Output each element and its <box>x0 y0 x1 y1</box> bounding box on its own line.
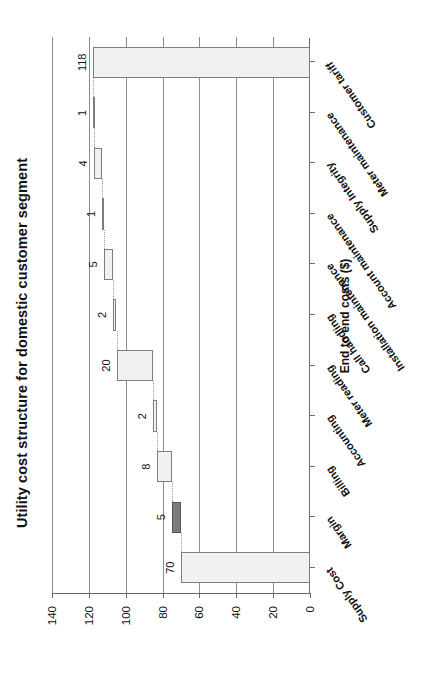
waterfall-connector <box>94 129 95 148</box>
category-tick <box>310 213 315 214</box>
bar-value-label: 118 <box>76 54 88 72</box>
y-axis-tick-label: 140 <box>46 606 58 625</box>
waterfall-connector <box>172 482 173 501</box>
bar-value-label: 1 <box>76 110 88 116</box>
rotated-chart-wrapper: Utility cost structure for domestic cust… <box>0 0 424 686</box>
chart-title: Utility cost structure for domestic cust… <box>14 0 30 686</box>
category-tick <box>310 112 315 113</box>
bar-value-label: 2 <box>136 413 148 419</box>
bar-value-label: 5 <box>155 514 167 520</box>
bar-value-label: 2 <box>96 312 108 318</box>
gridline <box>89 37 90 593</box>
bar-margin <box>172 502 181 533</box>
y-axis-tick <box>199 593 200 598</box>
bar-customer-tariff <box>93 47 310 78</box>
gridline <box>199 37 200 593</box>
gridline <box>273 37 274 593</box>
category-tick <box>310 365 315 366</box>
bar-value-label: 4 <box>77 160 89 166</box>
waterfall-connector <box>117 331 118 350</box>
bar-billing <box>157 451 172 482</box>
category-tick <box>310 567 315 568</box>
waterfall-connector <box>102 179 103 198</box>
waterfall-connector <box>153 381 154 400</box>
bar-supply-integrity <box>94 148 101 179</box>
category-tick <box>310 263 315 264</box>
category-tick <box>310 466 315 467</box>
y-axis-tick-label: 0 <box>304 606 316 612</box>
gridline <box>126 37 127 593</box>
gridline <box>163 37 164 593</box>
y-axis-tick-label: 120 <box>83 606 95 625</box>
category-tick <box>310 162 315 163</box>
bar-call-handling <box>113 299 117 330</box>
category-tick <box>310 314 315 315</box>
bar-meter-maintenance <box>93 97 95 128</box>
y-axis-tick <box>163 593 164 598</box>
bar-value-label: 1 <box>85 211 97 217</box>
y-axis-tick <box>236 593 237 598</box>
bar-value-label: 5 <box>87 261 99 267</box>
category-tick <box>310 415 315 416</box>
bar-accounting <box>153 400 157 431</box>
y-axis-tick-label: 60 <box>193 606 205 619</box>
plot-area: 020406080100120140705822025141118 <box>52 38 310 594</box>
bar-supply-cost <box>181 552 310 583</box>
y-axis-tick <box>89 593 90 598</box>
y-axis-tick-label: 20 <box>267 606 279 619</box>
waterfall-connector <box>113 280 114 299</box>
bar-value-label: 8 <box>140 464 152 470</box>
bar-installation-maintenance <box>104 249 113 280</box>
y-axis-tick <box>52 593 53 598</box>
category-tick <box>310 61 315 62</box>
waterfall-chart: Utility cost structure for domestic cust… <box>0 0 424 686</box>
waterfall-connector <box>181 533 182 552</box>
category-tick <box>310 516 315 517</box>
waterfall-connector <box>157 432 158 451</box>
bar-account-maintenance <box>102 198 104 229</box>
y-axis-tick <box>273 593 274 598</box>
bar-value-label: 70 <box>164 562 176 574</box>
y-axis-tick <box>126 593 127 598</box>
y-axis-tick-label: 40 <box>230 606 242 619</box>
y-axis-tick-label: 80 <box>157 606 169 619</box>
bar-value-label: 20 <box>100 359 112 371</box>
bar-meter-reading <box>117 350 154 381</box>
gridline <box>52 37 53 593</box>
y-axis-tick-label: 100 <box>120 606 132 625</box>
gridline <box>236 37 237 593</box>
waterfall-connector <box>93 78 94 97</box>
y-axis-tick <box>310 593 311 598</box>
waterfall-connector <box>104 230 105 249</box>
